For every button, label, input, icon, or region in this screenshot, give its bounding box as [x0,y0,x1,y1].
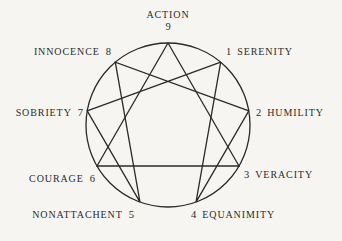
label-point-7: SOBRIETY7 [4,107,83,119]
virtue-serenity: SERENITY [237,46,293,57]
virtue-courage: COURAGE [29,173,84,184]
point-number-2: 2 [256,107,261,118]
label-point-6: COURAGE6 [10,173,95,185]
label-point-1: 1SERENITY [226,46,293,58]
label-point-2: 2HUMILITY [256,107,324,119]
virtue-sobriety: SOBRIETY [16,107,72,118]
label-point-3: 3VERACITY [244,169,313,181]
point-number-7: 7 [78,107,83,118]
virtue-innocence: INNOCENCE [34,46,100,57]
label-point-4: 4EQUANIMITY [191,209,275,221]
enneagram-hexad-1-4-2-8-5-7 [87,62,249,202]
label-point-8: INNOCENCE8 [20,46,111,58]
enneagram-figure [0,0,342,241]
enneagram-triangle-9-3-6 [97,43,239,166]
point-number-1: 1 [226,46,231,57]
point-number-3: 3 [244,169,249,180]
enneagram-diagram: ACTION 9 1SERENITY INNOCENCE8 2HUMILITY … [0,0,342,241]
virtue-action: ACTION [138,9,198,21]
virtue-veracity: VERACITY [255,169,313,180]
virtue-nonattachent: NONATTACHENT [32,209,123,220]
point-number-9: 9 [138,21,198,33]
virtue-equanimity: EQUANIMITY [202,209,275,220]
virtue-humility: HUMILITY [267,107,324,118]
point-number-4: 4 [191,209,196,220]
point-number-5: 5 [129,209,134,220]
point-number-8: 8 [106,46,111,57]
label-point-9: ACTION 9 [138,9,198,33]
enneagram-circle [86,43,250,207]
point-number-6: 6 [90,173,95,184]
label-point-5: NONATTACHENT5 [10,209,134,221]
